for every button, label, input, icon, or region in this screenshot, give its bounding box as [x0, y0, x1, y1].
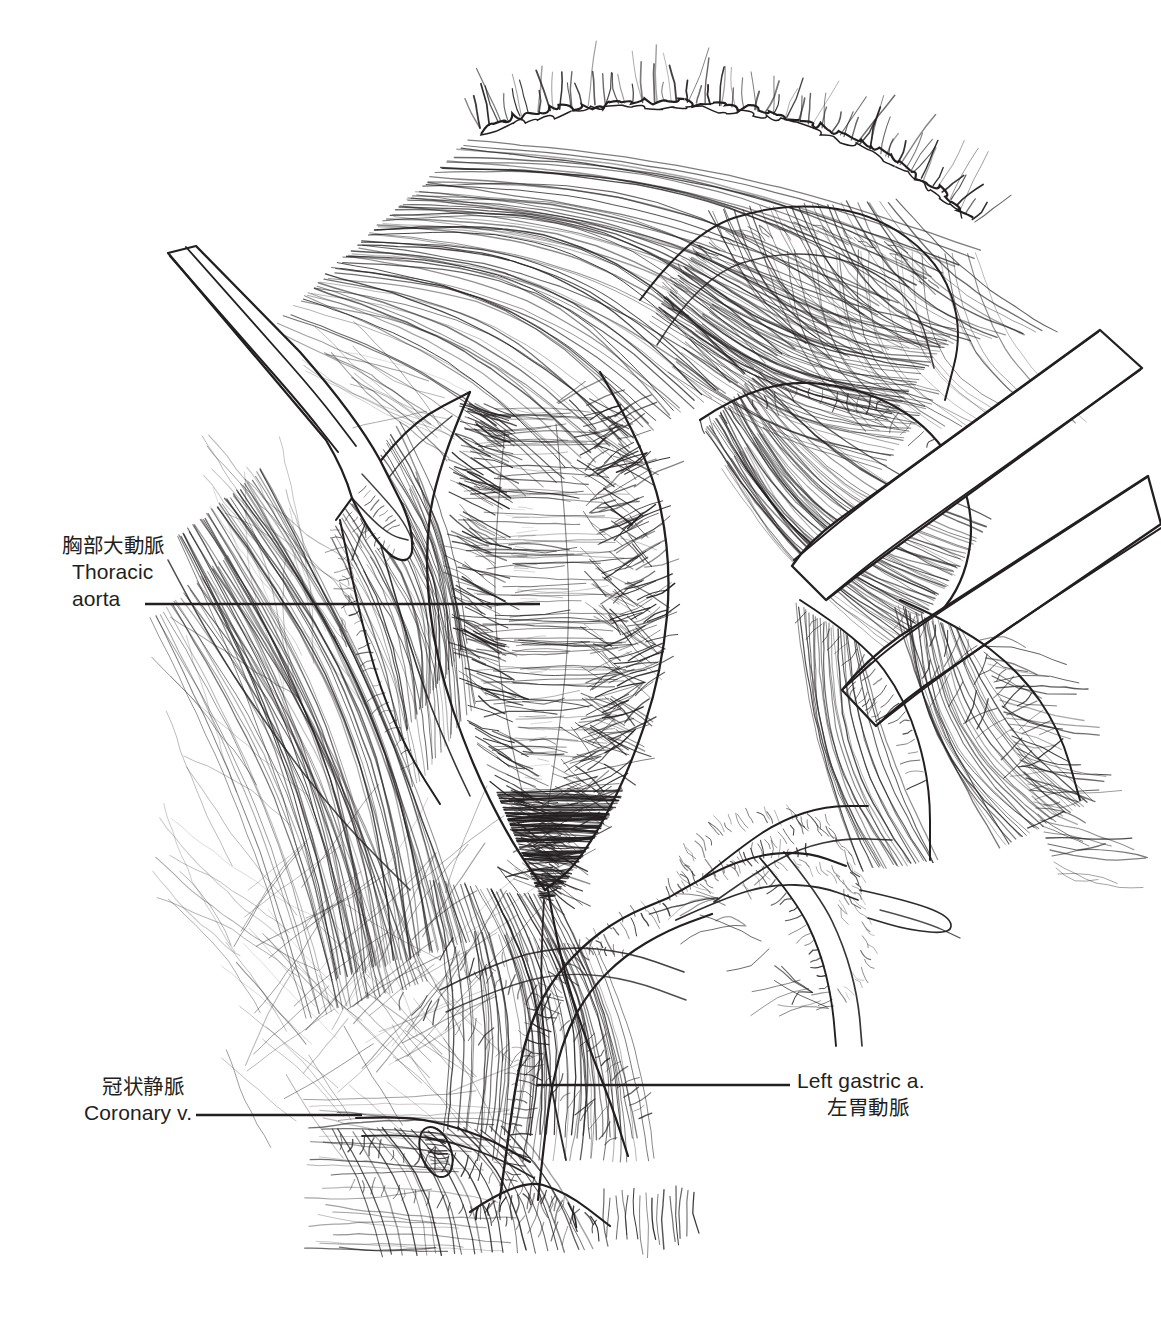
- illustration-page: 胸部大動脈 Thoracic aorta 冠状静脈 Coronary v. Le…: [0, 0, 1161, 1320]
- label-thoracic-aorta-en-line2: aorta: [62, 586, 165, 613]
- label-coronary-vein: 冠状静脈 Coronary v.: [84, 1074, 192, 1127]
- label-thoracic-aorta-jp: 胸部大動脈: [62, 533, 165, 559]
- label-left-gastric-artery-jp: 左胃動脈: [797, 1095, 925, 1121]
- label-left-gastric-artery-en: Left gastric a.: [797, 1068, 925, 1095]
- label-left-gastric-artery: Left gastric a. 左胃動脈: [797, 1068, 925, 1121]
- label-thoracic-aorta: 胸部大動脈 Thoracic aorta: [62, 533, 165, 613]
- label-thoracic-aorta-en-line1: Thoracic: [62, 559, 165, 586]
- label-coronary-vein-en: Coronary v.: [84, 1100, 192, 1127]
- label-coronary-vein-jp: 冠状静脈: [84, 1074, 192, 1100]
